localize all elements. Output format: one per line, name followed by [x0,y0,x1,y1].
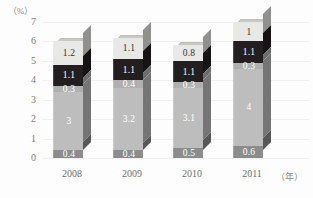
bar-side-face [203,29,211,150]
bar-segment-value-label: 1.1 [174,67,204,77]
y-axis-tick-label: 7 [0,17,36,27]
x-axis-tick-label: 2009 [105,168,159,179]
bar-side-face [263,6,271,150]
y-axis-unit-label: （%） [8,4,33,17]
y-axis-tick-label: 5 [0,56,36,66]
stacked-column-chart: （%） 76543210 1.21.10.330.41.11.10.43.20.… [0,0,313,198]
bar-segment-value-label: 0.8 [174,48,204,58]
bar-segment-value-label: 0.4 [54,149,84,159]
bar-segment[interactable]: 0.4 [113,80,143,88]
bar-segment[interactable]: 1.1 [173,61,203,82]
bar-side-face [143,22,151,150]
bar-segment[interactable]: 0.8 [173,45,203,61]
bar-group[interactable]: 11.10.340.6 [233,14,271,158]
bar-segment-value-label: 1.1 [234,47,264,57]
bar-segment[interactable]: 1.1 [113,59,143,80]
bar-segment-value-label: 1 [234,27,264,37]
bar-stack: 1.11.10.43.20.4 [113,38,143,158]
bar-segment-value-label: 1.1 [54,70,84,80]
bar-segment[interactable]: 1.2 [53,41,83,64]
bar-segment[interactable]: 1.1 [53,65,83,86]
y-axis-tick-label: 1 [0,134,36,144]
bar-segment[interactable]: 0.4 [53,150,83,158]
bar-segment[interactable]: 0.5 [173,148,203,158]
x-axis-tick-label: 2010 [165,168,219,179]
y-axis-tick-label: 2 [0,114,36,124]
bar-segment-value-label: 0.6 [234,147,264,157]
bar-segment-side [263,53,271,139]
bar-segment-value-label: 3.2 [114,114,144,124]
bar-segment-value-label: 1.2 [54,48,84,58]
bar-segment-side [203,72,211,140]
bar-side-face [83,25,91,150]
y-axis-tick-label: 0 [0,153,36,163]
bar-stack: 0.81.10.33.10.5 [173,45,203,158]
bar-segment-side [83,76,91,142]
bar-segment-side [143,72,151,142]
y-axis-tick-label: 6 [0,36,36,46]
bar-segment[interactable]: 4 [233,69,263,147]
bar-segment[interactable]: 1.1 [233,41,263,62]
bar-segment-value-label: 0.5 [174,148,204,158]
bar-group[interactable]: 1.11.10.43.20.4 [113,30,151,158]
bar-segment-value-label: 1.1 [114,43,144,53]
bar-segment[interactable]: 0.4 [113,150,143,158]
bar-segment[interactable]: 3.1 [173,88,203,148]
y-axis-tick-label: 3 [0,95,36,105]
bar-segment[interactable]: 3.2 [113,88,143,150]
bar-group[interactable]: 1.21.10.330.4 [53,33,91,158]
bar-group[interactable]: 0.81.10.33.10.5 [173,37,211,158]
bar-segment[interactable]: 1.1 [113,38,143,59]
x-axis-tick-label: 2011 [225,168,279,179]
bar-stack: 11.10.340.6 [233,22,263,158]
bar-segment-value-label: 0.4 [114,149,144,159]
x-axis-unit-label: （年） [276,170,303,183]
y-axis-tick-label: 4 [0,75,36,85]
bar-segment-value-label: 3 [54,116,84,126]
bar-segment-value-label: 1.1 [114,65,144,75]
bar-segment[interactable]: 1 [233,22,263,41]
bar-segment[interactable]: 0.6 [233,146,263,158]
bar-segment[interactable]: 3 [53,92,83,150]
bar-stack: 1.21.10.330.4 [53,41,83,158]
bar-segment-value-label: 3.1 [174,113,204,123]
bar-segment-value-label: 4 [234,102,264,112]
x-axis-tick-label: 2008 [45,168,99,179]
